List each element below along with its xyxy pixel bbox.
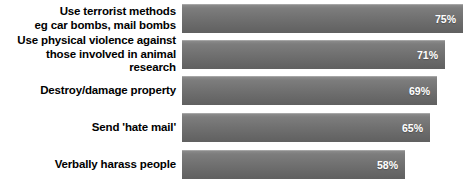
category-label: Use terrorist methods eg car bombs, mail…	[4, 5, 182, 32]
bar-track: 58%	[182, 150, 472, 179]
bar-value-label: 69%	[409, 85, 437, 97]
bar: 65%	[182, 113, 430, 142]
chart-row: Use terrorist methods eg car bombs, mail…	[0, 4, 472, 33]
bar-track: 65%	[182, 113, 472, 142]
bar-value-label: 58%	[377, 159, 405, 171]
chart-row: Verbally harass people 58%	[0, 150, 472, 179]
category-label: Send 'hate mail'	[4, 121, 182, 135]
bar-track: 75%	[182, 4, 472, 33]
horizontal-bar-chart: Use terrorist methods eg car bombs, mail…	[0, 0, 472, 189]
category-label: Verbally harass people	[4, 158, 182, 172]
bar-value-label: 65%	[402, 122, 430, 134]
bar: 71%	[182, 40, 445, 69]
bar: 58%	[182, 150, 405, 179]
bar: 69%	[182, 76, 437, 105]
category-label: Use physical violence against those invo…	[4, 34, 182, 75]
bar: 75%	[182, 4, 463, 33]
bar-value-label: 71%	[417, 49, 445, 61]
chart-row: Destroy/damage property 69%	[0, 76, 472, 105]
category-label: Destroy/damage property	[4, 84, 182, 98]
chart-row: Send 'hate mail' 65%	[0, 113, 472, 142]
bar-track: 71%	[182, 40, 472, 69]
bar-track: 69%	[182, 76, 472, 105]
chart-row: Use physical violence against those invo…	[0, 40, 472, 69]
bar-value-label: 75%	[435, 13, 463, 25]
